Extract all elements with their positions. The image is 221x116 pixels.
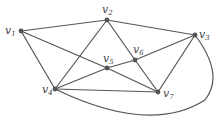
node-v3 bbox=[193, 33, 198, 38]
label-v4: v4 bbox=[42, 83, 53, 97]
edge-v1-v4 bbox=[21, 31, 55, 89]
label-v3: v3 bbox=[199, 28, 210, 42]
edge-v1-v2 bbox=[21, 20, 107, 31]
node-v2 bbox=[105, 18, 110, 23]
node-v5 bbox=[105, 66, 110, 71]
edge-v5-v7 bbox=[107, 68, 158, 92]
graph-diagram: v1v2v3v4v5v6v7 bbox=[0, 0, 221, 116]
label-v1: v1 bbox=[5, 24, 16, 38]
node-v7 bbox=[156, 90, 161, 95]
node-v1 bbox=[19, 29, 24, 34]
label-v2: v2 bbox=[102, 3, 113, 17]
edge-v4-v7 bbox=[55, 89, 158, 92]
node-v4 bbox=[53, 87, 58, 92]
edge-v6-v3 bbox=[135, 35, 195, 60]
label-v5: v5 bbox=[103, 52, 114, 66]
label-v6: v6 bbox=[133, 43, 144, 57]
node-v6 bbox=[133, 58, 138, 63]
edge-v3-v7 bbox=[158, 35, 195, 92]
edge-v2-v3 bbox=[107, 20, 195, 35]
label-v7: v7 bbox=[163, 87, 174, 101]
edge-v2-v6 bbox=[107, 20, 135, 60]
